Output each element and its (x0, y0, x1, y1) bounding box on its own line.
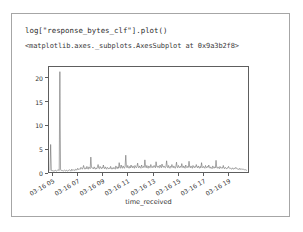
x-axis-tick-mark (102, 173, 103, 176)
x-axis-tick-mark (178, 173, 179, 176)
x-axis-tick-mark (127, 173, 128, 176)
matplotlib-figure: 05101520 03-16 0503-16 0703-16 0903-16 1… (12, 58, 289, 216)
y-axis-tick-label: 0 (39, 170, 43, 177)
y-axis-tick-label: 10 (35, 122, 43, 129)
screenshot-root: log["response_bytes_clf"].plot() <matplo… (0, 0, 303, 232)
y-axis-tick-label: 20 (35, 74, 43, 81)
notebook-cell-frame: log["response_bytes_clf"].plot() <matplo… (11, 13, 290, 217)
cell-divider (12, 56, 289, 57)
y-axis-tick-label: 5 (39, 146, 43, 153)
x-axis-tick-mark (77, 173, 78, 176)
x-axis-tick-mark (228, 173, 229, 176)
output-repr-line: <matplotlib.axes._subplots.AxesSubplot a… (25, 42, 239, 51)
code-input-line[interactable]: log["response_bytes_clf"].plot() (25, 26, 167, 35)
x-axis-tick-mark (153, 173, 154, 176)
y-axis: 05101520 (26, 66, 48, 173)
line-series-response-bytes-clf (49, 67, 248, 172)
x-axis-tick-mark (52, 173, 53, 176)
y-axis-tick-label: 15 (35, 98, 43, 105)
plot-axes (48, 66, 249, 173)
x-axis-title: time_received (48, 198, 249, 206)
x-axis-tick-mark (203, 173, 204, 176)
